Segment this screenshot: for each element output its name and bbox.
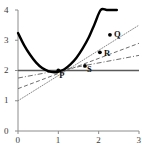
- x-tick-label: 0: [16, 136, 21, 145]
- y-tick-label: 1: [4, 96, 9, 105]
- data-point-marker-r: [98, 50, 102, 54]
- x-tick-label: 2: [96, 136, 101, 145]
- chart-canvas: [0, 0, 142, 146]
- secant-line-ps: [18, 55, 139, 78]
- point-label-q: Q: [114, 30, 121, 39]
- secant-line-pr: [18, 43, 139, 88]
- point-label-s: S: [87, 65, 92, 74]
- parabola-curve: [18, 9, 117, 72]
- y-tick-label: 3: [4, 36, 9, 45]
- y-tick-label: 2: [4, 66, 9, 75]
- x-tick-label: 1: [56, 136, 61, 145]
- figure-container: 01234 0123 PSRQ: [0, 0, 142, 146]
- y-tick-label: 0: [4, 127, 9, 136]
- series-group: [18, 9, 139, 101]
- y-tick-label: 4: [4, 6, 9, 15]
- data-point-marker-q: [108, 33, 112, 37]
- point-label-p: P: [59, 71, 64, 80]
- x-tick-label: 3: [137, 136, 142, 145]
- point-label-r: R: [104, 49, 110, 58]
